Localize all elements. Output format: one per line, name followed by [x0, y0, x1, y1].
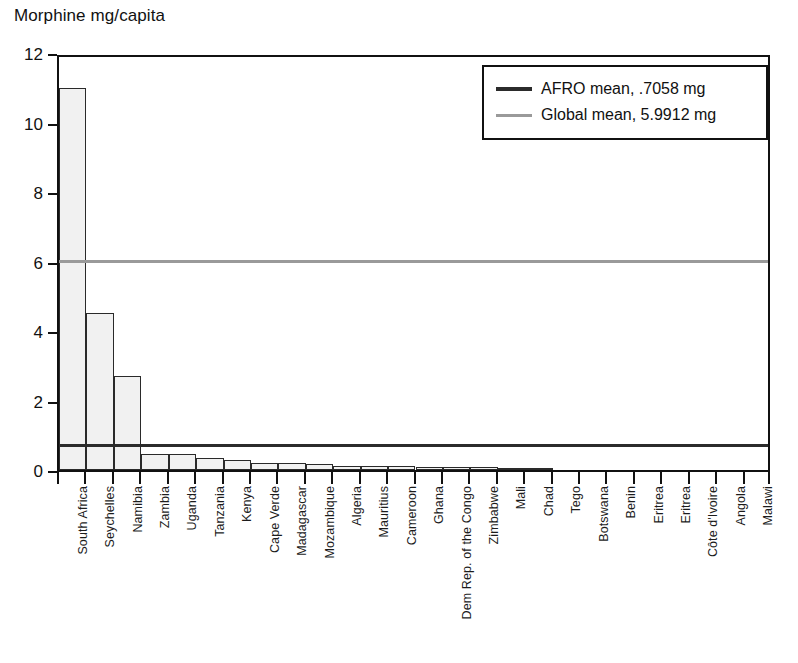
- bar: [388, 466, 415, 470]
- x-axis-tick-mark: [688, 472, 690, 484]
- y-axis-tick-mark: [48, 471, 57, 473]
- x-axis-tick-label: Angola: [734, 486, 748, 526]
- x-axis-tick-label: Cape Verde: [268, 486, 282, 553]
- x-axis-tick-label: Ghana: [432, 486, 446, 524]
- x-axis: South AfricaSeychellesNamibiaZambiaUgand…: [57, 472, 770, 662]
- x-axis-tick-mark: [112, 472, 114, 484]
- x-axis-tick-mark: [276, 472, 278, 484]
- x-axis-tick-label: Mali: [514, 486, 528, 509]
- x-axis-tick-label: Kenya: [240, 486, 254, 522]
- bar: [114, 376, 141, 470]
- bar: [333, 466, 360, 470]
- bar: [416, 467, 443, 470]
- x-axis-tick-mark: [743, 472, 745, 484]
- x-axis-tick-mark: [441, 472, 443, 484]
- bar: [59, 88, 86, 470]
- bar: [141, 454, 168, 470]
- y-axis-tick-label: 0: [34, 462, 43, 482]
- x-axis-tick-mark: [386, 472, 388, 484]
- y-axis-tick-label: 4: [34, 323, 43, 343]
- legend-line-swatch-icon: [496, 87, 532, 91]
- x-axis-tick-label: Côte d'Ivoire: [706, 486, 720, 557]
- x-axis-tick-mark: [578, 472, 580, 484]
- chart-figure: Morphine mg/capita 024681012 South Afric…: [0, 0, 798, 663]
- bar: [470, 467, 497, 470]
- x-axis-tick-mark: [84, 472, 86, 484]
- x-axis-tick-label: Tego: [569, 486, 583, 514]
- bar: [498, 468, 525, 470]
- x-axis-tick-mark: [605, 472, 607, 484]
- bar: [525, 468, 552, 470]
- x-axis-tick-label: Uganda: [185, 486, 199, 530]
- y-axis-tick-mark: [48, 54, 57, 56]
- chart-title: Morphine mg/capita: [14, 6, 165, 26]
- x-axis-tick-mark: [523, 472, 525, 484]
- y-axis-tick-mark: [48, 124, 57, 126]
- x-axis-tick-label: Chad: [542, 486, 556, 516]
- x-axis-tick-label: Algeria: [350, 486, 364, 526]
- x-axis-tick-mark: [331, 472, 333, 484]
- bar: [251, 463, 278, 470]
- x-axis-tick-mark: [194, 472, 196, 484]
- y-axis: 024681012: [0, 55, 57, 472]
- x-axis-tick-label: Zambia: [158, 486, 172, 528]
- x-axis-tick-mark: [468, 472, 470, 484]
- bar: [278, 463, 305, 470]
- x-axis-tick-mark: [496, 472, 498, 484]
- x-axis-tick-mark: [167, 472, 169, 484]
- y-axis-tick-label: 10: [24, 115, 43, 135]
- legend-line-swatch-icon: [496, 114, 532, 117]
- x-axis-tick-label: Madagascar: [295, 486, 309, 556]
- x-axis-tick-mark: [715, 472, 717, 484]
- x-axis-tick-mark: [57, 472, 59, 484]
- x-axis-tick-mark: [222, 472, 224, 484]
- bar: [224, 460, 251, 470]
- x-axis-tick-label: Botswana: [597, 486, 611, 542]
- x-axis-tick-label: Eritrea: [652, 486, 666, 524]
- x-axis-tick-label: Eritrea: [679, 486, 693, 524]
- x-axis-tick-mark: [660, 472, 662, 484]
- legend-item-label: Global mean, 5.9912 mg: [541, 106, 716, 124]
- x-axis-tick-mark: [304, 472, 306, 484]
- bar: [169, 454, 196, 470]
- x-axis-tick-label: Mozambique: [323, 486, 337, 559]
- x-axis-tick-mark: [633, 472, 635, 484]
- bar: [196, 458, 223, 471]
- x-axis-tick-label: Namibia: [131, 486, 145, 533]
- legend-item-global-mean: Global mean, 5.9912 mg: [496, 102, 756, 128]
- legend-item-label: AFRO mean, .7058 mg: [541, 80, 706, 98]
- bar: [443, 467, 470, 470]
- x-axis-tick-label: Seychelles: [103, 486, 117, 547]
- x-axis-tick-label: Dem Rep. of the Congo: [460, 486, 474, 619]
- x-axis-tick-mark: [359, 472, 361, 484]
- bar: [361, 466, 388, 470]
- legend-item-afro-mean: AFRO mean, .7058 mg: [496, 76, 756, 102]
- y-axis-tick-label: 12: [24, 45, 43, 65]
- y-axis-tick-mark: [48, 193, 57, 195]
- y-axis-tick-label: 2: [34, 393, 43, 413]
- x-axis-tick-mark: [414, 472, 416, 484]
- x-axis-tick-mark: [551, 472, 553, 484]
- bar: [86, 313, 113, 470]
- x-axis-tick-label: Malawi: [761, 486, 775, 526]
- y-axis-tick-mark: [48, 332, 57, 334]
- x-axis-tick-mark: [249, 472, 251, 484]
- bar: [306, 464, 333, 470]
- x-axis-tick-label: Tanzania: [213, 486, 227, 537]
- y-axis-tick-label: 6: [34, 254, 43, 274]
- x-axis-tick-mark: [139, 472, 141, 484]
- chart-legend: AFRO mean, .7058 mg Global mean, 5.9912 …: [482, 65, 768, 140]
- x-axis-tick-label: Mauritius: [377, 486, 391, 538]
- x-axis-tick-label: Cameroon: [405, 486, 419, 545]
- y-axis-tick-label: 8: [34, 184, 43, 204]
- y-axis-tick-mark: [48, 402, 57, 404]
- x-axis-tick-label: South Africa: [76, 486, 90, 555]
- y-axis-tick-mark: [48, 263, 57, 265]
- x-axis-tick-label: Zimbabwe: [487, 486, 501, 544]
- x-axis-tick-label: Benin: [624, 486, 638, 518]
- x-axis-tick-mark: [768, 472, 770, 484]
